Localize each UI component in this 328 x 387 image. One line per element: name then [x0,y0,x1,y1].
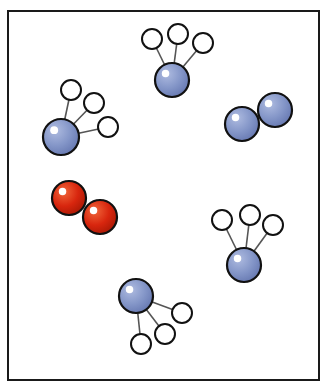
hydrogen-atom [131,334,151,354]
hydrogen-atom [98,117,118,137]
nitrogen-atom [258,93,292,127]
molecules-group [43,24,292,354]
hydrogen-atom [142,29,162,49]
highlight [265,100,272,107]
hydrogen-atom [84,93,104,113]
molecule-diagram [0,0,328,387]
hydrogen-atom [61,80,81,100]
hydrogen-atom [263,215,283,235]
molecule-nitrogen-gas [225,93,292,141]
nitrogen-atom [225,107,259,141]
highlight [232,114,239,121]
highlight [50,126,58,134]
nitrogen-atom [227,248,261,282]
hydrogen-atom [155,324,175,344]
nitrogen-atom [43,119,79,155]
molecule-ammonia [212,205,283,282]
highlight [234,255,241,262]
highlight [162,70,169,77]
oxygen-atom [52,181,86,215]
hydrogen-atom [212,210,232,230]
highlight [90,207,97,214]
nitrogen-atom [155,63,189,97]
highlight [59,188,66,195]
molecule-ammonia [43,80,118,155]
highlight [126,286,133,293]
molecule-oxygen-gas [52,181,117,234]
oxygen-atom [83,200,117,234]
molecule-ammonia [142,24,213,97]
hydrogen-atom [193,33,213,53]
hydrogen-atom [168,24,188,44]
nitrogen-atom [119,279,153,313]
molecule-ammonia [119,279,192,354]
hydrogen-atom [240,205,260,225]
hydrogen-atom [172,303,192,323]
